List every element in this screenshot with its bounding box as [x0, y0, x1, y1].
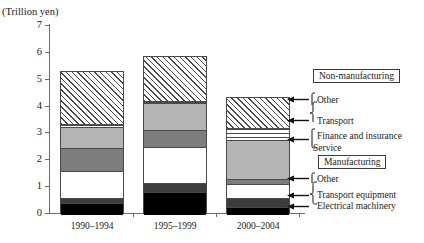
segment-mf-other-2 — [144, 147, 206, 183]
annotation-mf-electrical-machinery: Electrical machinery — [317, 201, 396, 211]
bar-1995-1999 — [143, 56, 207, 214]
y-tick-7 — [45, 25, 49, 26]
segment-nm-other-3 — [227, 98, 289, 128]
segment-mf-electrical-machinery-3 — [227, 207, 289, 215]
category-label-1990-1994: 1990–1994 — [47, 221, 137, 231]
annotation-mf-other: Other — [317, 174, 339, 184]
category-label-2000-2004: 2000–2004 — [213, 221, 303, 231]
segment-mf-electrical-machinery-1 — [61, 203, 123, 215]
arrow-nm-transport — [287, 117, 309, 124]
bar-1990-1994 — [60, 71, 124, 214]
stacked-bar-chart: (Trillion yen) 0 1 2 3 4 5 6 7 — [0, 0, 424, 243]
group-box-non-manufacturing: Non-manufacturing — [313, 69, 400, 83]
segment-mf-other-3 — [227, 184, 289, 198]
annotation-nm-service: Service — [313, 143, 342, 153]
segment-mf-other-1 — [61, 171, 123, 198]
y-tick-3 — [45, 132, 49, 133]
y-axis-line — [49, 24, 50, 214]
arrow-mf-transport-equipment — [287, 192, 309, 199]
y-tick-0 — [45, 213, 49, 214]
x-tick-1 — [216, 213, 217, 217]
x-tick-2 — [299, 213, 300, 217]
arrow-mf-other — [287, 175, 309, 182]
arrow-nm-finance-service — [287, 136, 309, 143]
y-tick-label-5: 5 — [26, 74, 42, 84]
y-tick-4 — [45, 106, 49, 107]
y-tick-label-7: 7 — [26, 20, 42, 30]
y-tick-2 — [45, 159, 49, 160]
group-box-manufacturing: Manufacturing — [318, 155, 386, 169]
arrow-mf-electrical-machinery — [287, 203, 309, 210]
y-tick-6 — [45, 52, 49, 53]
y-tick-1 — [45, 186, 49, 187]
annotation-nm-other: Other — [317, 95, 339, 105]
segment-nm-service-2 — [144, 130, 206, 147]
y-tick-label-6: 6 — [26, 47, 42, 57]
y-tick-label-0: 0 — [26, 208, 42, 218]
segment-nm-finance-3 — [227, 140, 289, 179]
segment-nm-other-2 — [144, 57, 206, 101]
segment-nm-finance-1 — [61, 127, 123, 148]
bar-2000-2004 — [226, 97, 290, 214]
segment-mf-transport-equipment-2 — [144, 183, 206, 192]
segment-nm-service-1 — [61, 148, 123, 171]
arrow-nm-other — [287, 96, 309, 103]
annotation-mf-transport-equipment: Transport equipment — [317, 190, 396, 200]
brace-mf-group — [309, 180, 317, 206]
y-tick-label-1: 1 — [26, 181, 42, 191]
segment-mf-electrical-machinery-2 — [144, 192, 206, 215]
y-tick-label-3: 3 — [26, 127, 42, 137]
y-tick-label-2: 2 — [26, 154, 42, 164]
x-tick-0 — [133, 213, 134, 217]
y-tick-5 — [45, 79, 49, 80]
annotation-nm-transport: Transport — [317, 116, 354, 126]
annotation-nm-finance: Finance and insurance — [317, 131, 402, 141]
segment-nm-other-1 — [61, 72, 123, 124]
segment-nm-transport-3 — [227, 128, 289, 140]
segment-nm-finance-2 — [144, 103, 206, 130]
brace-nm-transport — [309, 100, 317, 124]
category-label-1995-1999: 1995–1999 — [130, 221, 220, 231]
y-tick-label-4: 4 — [26, 101, 42, 111]
segment-mf-transport-equipment-3 — [227, 198, 289, 207]
